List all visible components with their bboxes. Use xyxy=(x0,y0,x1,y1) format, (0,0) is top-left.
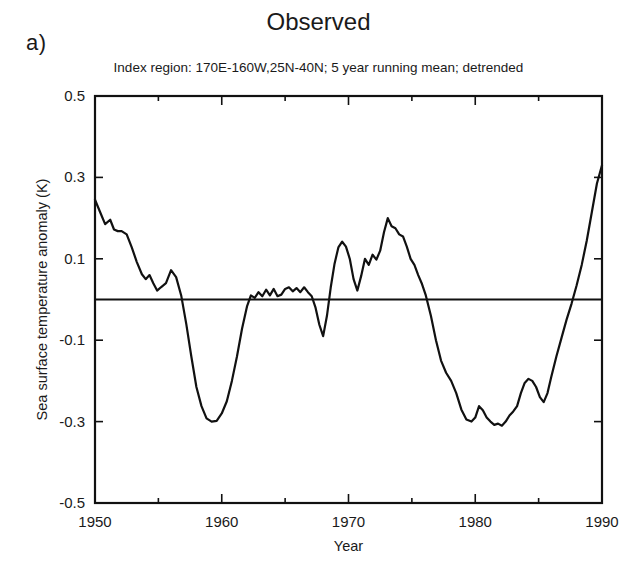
line-chart: 19501960197019801990-0.5-0.3-0.10.10.30.… xyxy=(0,0,637,563)
x-tick-label: 1960 xyxy=(205,513,238,530)
data-series-line xyxy=(95,165,602,425)
x-tick-label: 1950 xyxy=(78,513,111,530)
figure-title: Observed xyxy=(0,8,637,36)
y-tick-label: 0.1 xyxy=(64,250,85,267)
y-tick-label: 0.5 xyxy=(64,87,85,104)
y-tick-label: -0.3 xyxy=(59,413,85,430)
y-tick-label: 0.3 xyxy=(64,168,85,185)
x-tick-label: 1980 xyxy=(459,513,492,530)
x-tick-label: 1990 xyxy=(585,513,618,530)
x-tick-label: 1970 xyxy=(332,513,365,530)
y-tick-label: -0.1 xyxy=(59,331,85,348)
y-tick-label: -0.5 xyxy=(59,494,85,511)
y-axis-title: Sea surface temperature anomaly (K) xyxy=(34,179,50,421)
figure-subtitle: Index region: 170E-160W,25N-40N; 5 year … xyxy=(0,60,637,75)
x-axis-title: Year xyxy=(334,538,363,554)
figure-panel: a) Observed Index region: 170E-160W,25N-… xyxy=(0,0,637,563)
